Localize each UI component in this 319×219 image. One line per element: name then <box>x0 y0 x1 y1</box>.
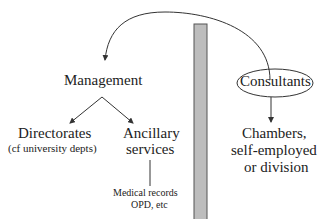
ancillary-node-line2: services <box>126 142 174 158</box>
ancillary-examples-line1: Medical records <box>113 188 178 199</box>
ancillary-examples-line2: OPD, etc <box>131 200 168 211</box>
consultants-node: Consultants <box>240 74 311 90</box>
divider-bar <box>194 24 207 219</box>
chambers-node-line2: self-employed <box>231 143 317 159</box>
directorates-node: Directorates <box>18 126 91 142</box>
chambers-node-line1: Chambers, <box>242 126 307 142</box>
feedback-curve-arrow <box>105 12 270 80</box>
ancillary-node-line1: Ancillary <box>123 126 180 142</box>
chambers-node-line3: or division <box>244 160 309 176</box>
management-node: Management <box>64 73 142 89</box>
management-to-ancillary-arrow <box>102 97 133 123</box>
management-to-directorates-arrow <box>70 97 102 123</box>
directorates-note: (cf university depts) <box>8 143 97 155</box>
